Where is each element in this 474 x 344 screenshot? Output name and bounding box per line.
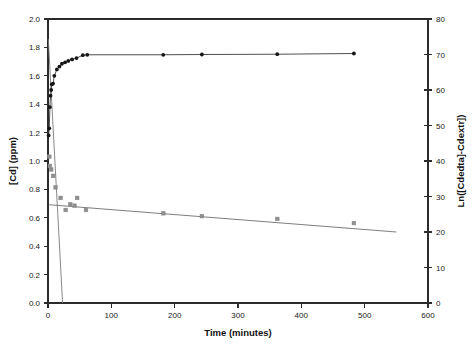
- chart-figure: 0.0 0.2 0.4 0.6 0.8 1.0 1.2 1.4 1.6 1.8 …: [0, 0, 474, 344]
- y-tick-label-right: 40: [436, 157, 445, 166]
- y-tick-label-left: 0.6: [29, 214, 41, 223]
- y-tick-label-right: 80: [436, 15, 445, 24]
- data-point-square: [275, 217, 279, 221]
- y-tick-label-left: 0.8: [29, 185, 41, 194]
- x-tick-label: 400: [295, 311, 309, 320]
- y-tick-label-left: 1.4: [29, 100, 41, 109]
- y-axis-left-title: [Cd] (ppm): [7, 137, 18, 185]
- y-tick-label-right: 70: [436, 51, 445, 60]
- x-axis-tick-labels: 0 100 200 300 400 500 600: [46, 311, 435, 320]
- y-tick-label-left: 1.6: [29, 72, 41, 81]
- data-point-circle: [51, 82, 55, 86]
- data-point-circle: [200, 53, 204, 57]
- data-point-square: [352, 221, 356, 225]
- chart-canvas: 0.0 0.2 0.4 0.6 0.8 1.0 1.2 1.4 1.6 1.8 …: [0, 0, 474, 344]
- y-tick-label-right: 20: [436, 228, 445, 237]
- data-point-circle: [47, 126, 51, 130]
- data-point-square: [161, 211, 165, 215]
- data-point-circle: [161, 53, 165, 57]
- data-point-circle: [55, 68, 59, 72]
- x-axis-title: Time (minutes): [204, 327, 271, 338]
- x-tick-label: 600: [421, 311, 435, 320]
- y-axis-right-title: Ln([Cdedta]-Cdextr]): [455, 115, 466, 208]
- y-tick-label-right: 30: [436, 193, 445, 202]
- x-tick-label: 100: [105, 311, 119, 320]
- x-axis-ticks: [48, 303, 428, 308]
- x-tick-label: 500: [358, 311, 372, 320]
- series-filled-circle: [47, 52, 356, 138]
- y-tick-label-left: 1.8: [29, 43, 41, 52]
- y-tick-label-right: 0: [436, 299, 441, 308]
- data-point-square: [59, 196, 63, 200]
- data-point-square: [200, 214, 204, 218]
- y-tick-label-left: 0.0: [29, 299, 41, 308]
- y-tick-label-right: 50: [436, 122, 445, 131]
- data-point-square: [48, 164, 52, 168]
- x-tick-label: 300: [231, 311, 245, 320]
- data-point-square: [73, 204, 77, 208]
- data-point-circle: [275, 52, 279, 56]
- data-point-square: [51, 174, 55, 178]
- series-gray-square: [47, 155, 355, 225]
- data-point-circle: [48, 105, 52, 109]
- y-tick-label-right: 10: [436, 264, 445, 273]
- data-point-square: [84, 208, 88, 212]
- data-point-square: [47, 155, 51, 159]
- y-axis-left-tick-labels: 0.0 0.2 0.4 0.6 0.8 1.0 1.2 1.4 1.6 1.8 …: [29, 15, 41, 308]
- data-point-circle: [49, 94, 53, 98]
- data-point-circle: [75, 56, 79, 60]
- x-tick-label: 200: [168, 311, 182, 320]
- plot-frame: [48, 19, 428, 303]
- data-point-square: [49, 168, 53, 172]
- data-point-square: [68, 202, 72, 206]
- x-tick-label: 0: [46, 311, 51, 320]
- y-tick-label-left: 0.2: [29, 271, 41, 280]
- y-tick-label-left: 2.0: [29, 15, 41, 24]
- data-point-circle: [49, 88, 53, 92]
- y-tick-label-left: 0.4: [29, 242, 41, 251]
- data-point-circle: [52, 74, 56, 78]
- data-point-circle: [81, 53, 85, 57]
- data-point-square: [75, 196, 79, 200]
- data-point-circle: [47, 134, 51, 138]
- data-point-circle: [70, 58, 74, 62]
- y-tick-label-right: 60: [436, 86, 445, 95]
- data-point-square: [54, 185, 58, 189]
- y-tick-label-left: 1.2: [29, 129, 41, 138]
- fit-line-slow-decay-regression: [49, 205, 396, 232]
- chart-data-layer: [47, 39, 397, 303]
- series-connector-line: [49, 54, 354, 136]
- y-axis-right-tick-labels: 0 10 20 30 40 50 60 70 80: [436, 15, 445, 308]
- data-point-circle: [352, 52, 356, 56]
- data-point-square: [64, 208, 68, 212]
- data-point-circle: [85, 53, 89, 57]
- data-point-circle: [58, 65, 62, 69]
- y-tick-label-left: 1.0: [29, 157, 41, 166]
- data-point-circle: [66, 59, 70, 63]
